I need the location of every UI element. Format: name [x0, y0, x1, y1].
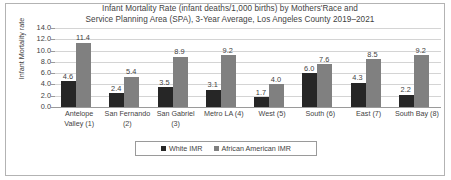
bar-group: 3.19.2 — [200, 28, 248, 107]
bar-white-imr — [399, 95, 414, 107]
bar-aa-imr — [317, 64, 332, 107]
bar-white-imr — [109, 93, 124, 107]
legend-swatch-icon — [161, 146, 166, 151]
bar-value-label: 8.5 — [360, 51, 386, 58]
legend-swatch-icon — [214, 146, 219, 151]
x-axis-label-line: East (7) — [345, 109, 393, 119]
bar-aa-imr — [173, 57, 188, 107]
bar-white-imr — [206, 90, 221, 107]
x-axis-label-line: (2) — [103, 119, 151, 129]
bar-group: 6.07.6 — [296, 28, 344, 107]
bar-value-label: 9.2 — [408, 47, 434, 54]
y-tick-label-0: 0.0 — [21, 103, 51, 110]
chart-title-line-1: Infant Mortality Rate (infant deaths/1,0… — [30, 3, 430, 14]
legend-item[interactable]: African American IMR — [214, 144, 292, 153]
x-axis-label-line: Metro LA (4) — [200, 109, 248, 119]
bar-white-imr — [158, 87, 173, 107]
x-axis-label: San Gabriel(3) — [152, 109, 200, 128]
bar-group: 2.45.4 — [103, 28, 151, 107]
gridline-0 — [55, 107, 441, 108]
x-axis-label-line: (3) — [152, 119, 200, 129]
bar-value-label: 9.2 — [215, 47, 241, 54]
x-axis-label-line: South Bay (8) — [393, 109, 441, 119]
legend-label: White IMR — [169, 144, 203, 153]
y-tick-label-6: 6.0 — [21, 69, 51, 76]
bar-value-label: 8.9 — [167, 48, 193, 55]
x-axis-label: West (5) — [248, 109, 296, 119]
legend-item[interactable]: White IMR — [161, 144, 203, 153]
chart-title-line-2: Service Planning Area (SPA), 3-Year Aver… — [30, 14, 430, 25]
bar-aa-imr — [269, 84, 284, 107]
x-axis-label-line: West (5) — [248, 109, 296, 119]
x-axis-label: South Bay (8) — [393, 109, 441, 119]
bar-aa-imr — [366, 59, 381, 107]
y-tick-label-12: 12.0 — [21, 35, 51, 42]
bar-aa-imr — [221, 55, 236, 107]
bar-white-imr — [254, 97, 269, 107]
legend-label: African American IMR — [222, 144, 292, 153]
x-axis-label-line: Antelope — [55, 109, 103, 119]
bar-white-imr — [61, 81, 76, 107]
bar-value-label: 7.6 — [311, 56, 337, 63]
y-tick-label-14: 14.0 — [21, 24, 51, 31]
bar-white-imr — [351, 83, 366, 107]
bar-aa-imr — [124, 77, 139, 107]
bar-value-label: 5.4 — [118, 68, 144, 75]
bar-value-label: 4.0 — [263, 76, 289, 83]
bar-value-label: 11.4 — [70, 34, 96, 41]
x-axis-label-line: San Fernando — [103, 109, 151, 119]
x-axis-label-line: South (6) — [296, 109, 344, 119]
y-tick-label-8: 8.0 — [21, 58, 51, 65]
x-axis-label: Metro LA (4) — [200, 109, 248, 119]
bar-aa-imr — [76, 43, 91, 107]
x-axis-label-line: Valley (1) — [55, 119, 103, 129]
plot-area: 4.611.42.45.43.58.93.19.21.74.06.07.64.3… — [55, 28, 441, 107]
x-axis-label: AntelopeValley (1) — [55, 109, 103, 128]
y-tick-label-10: 10.0 — [21, 47, 51, 54]
chart-title: Infant Mortality Rate (infant deaths/1,0… — [30, 3, 430, 25]
bar-group: 4.38.5 — [345, 28, 393, 107]
y-tick-label-2: 2.0 — [21, 92, 51, 99]
x-axis-label: East (7) — [345, 109, 393, 119]
y-tick-label-4: 4.0 — [21, 80, 51, 87]
bar-group: 3.58.9 — [152, 28, 200, 107]
bar-white-imr — [302, 73, 317, 107]
bar-group: 1.74.0 — [248, 28, 296, 107]
bar-aa-imr — [414, 55, 429, 107]
chart-container: Infant Mortality Rate (infant deaths/1,0… — [0, 0, 451, 180]
x-axis-labels: AntelopeValley (1)San Fernando(2)San Gab… — [55, 109, 441, 131]
chart-legend: White IMRAfrican American IMR — [135, 141, 317, 156]
x-axis-label: San Fernando(2) — [103, 109, 151, 128]
bar-group: 2.29.2 — [393, 28, 441, 107]
x-axis-label-line: San Gabriel — [152, 109, 200, 119]
bar-group: 4.611.4 — [55, 28, 103, 107]
x-axis-label: South (6) — [296, 109, 344, 119]
